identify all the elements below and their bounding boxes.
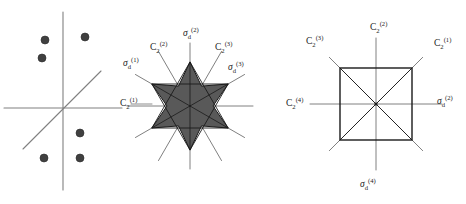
hexagram-label-sigma_d_1-text: σd(1) bbox=[123, 56, 139, 69]
point-marker bbox=[76, 154, 84, 162]
point-marker bbox=[41, 36, 49, 44]
hexagram-panel: σd(1)C2(2)σd(2)C2(3)σd(3)C2(1) bbox=[120, 26, 253, 169]
square-label-C2_1: C2(1) bbox=[434, 36, 451, 49]
square-label-sigma_d_2-text: σd(2) bbox=[437, 94, 453, 107]
point-marker bbox=[38, 54, 46, 62]
hexagram-label-C2_1: C2(1) bbox=[120, 96, 137, 109]
symmetry-elements-figure: σd(1)C2(2)σd(2)C2(3)σd(3)C2(1)C2(3)C2(2)… bbox=[0, 0, 466, 204]
hexagram-label-sigma_d_3-text: σd(3) bbox=[228, 60, 244, 73]
scattered-points-panel bbox=[4, 12, 122, 190]
point-marker bbox=[76, 129, 84, 137]
figure-canvas: σd(1)C2(2)σd(2)C2(3)σd(3)C2(1)C2(3)C2(2)… bbox=[0, 0, 466, 204]
hexagram-label-sigma_d_3: σd(3) bbox=[228, 60, 244, 73]
square-label-C2_1-text: C2(1) bbox=[434, 36, 451, 49]
hexagram-label-C2_3: C2(3) bbox=[215, 40, 232, 53]
square-center-point bbox=[374, 102, 377, 105]
square-label-sigma_d_2: σd(2) bbox=[437, 94, 453, 107]
hexagram-label-C2_1-text: C2(1) bbox=[120, 96, 137, 109]
square-label-C2_3: C2(3) bbox=[306, 34, 323, 47]
square-panel: C2(3)C2(2)C2(1)C2(4)σd(2)σd(4) bbox=[286, 20, 453, 190]
square-label-C2_2-text: C2(2) bbox=[370, 20, 387, 33]
point-marker bbox=[81, 33, 89, 41]
point-marker bbox=[40, 154, 48, 162]
square-label-sigma_d_4: σd(4) bbox=[360, 177, 376, 190]
square-label-sigma_d_4-text: σd(4) bbox=[360, 177, 376, 190]
square-label-C2_4-text: C2(4) bbox=[286, 96, 303, 109]
square-label-C2_3-text: C2(3) bbox=[306, 34, 323, 47]
square-label-C2_2: C2(2) bbox=[370, 20, 387, 33]
hexagram-label-sigma_d_1: σd(1) bbox=[123, 56, 139, 69]
hexagram-label-C2_3-text: C2(3) bbox=[215, 40, 232, 53]
square-label-C2_4: C2(4) bbox=[286, 96, 303, 109]
hexagram-label-sigma_d_2: σd(2) bbox=[183, 26, 199, 39]
hexagram-label-C2_2-text: C2(2) bbox=[150, 40, 167, 53]
hexagram-label-sigma_d_2-text: σd(2) bbox=[183, 26, 199, 39]
diagonal-axis bbox=[23, 71, 101, 149]
hexagram-label-C2_2: C2(2) bbox=[150, 40, 167, 53]
